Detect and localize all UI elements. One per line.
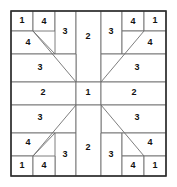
region-value-br-4a: 4	[130, 160, 135, 170]
puzzle-region-bl-4b[interactable]	[11, 133, 55, 156]
region-value-tl-4b: 4	[25, 37, 30, 47]
region-value-r-3lower: 3	[134, 112, 139, 122]
region-value-tr-4b: 4	[147, 37, 152, 47]
region-value-m-2left: 2	[40, 87, 45, 97]
puzzle-grid: 1443234143321233432314441	[0, 0, 177, 187]
puzzle-region-l-3lower[interactable]	[11, 105, 76, 133]
region-value-l-3lower: 3	[37, 112, 42, 122]
region-value-m-2right: 2	[131, 87, 136, 97]
puzzle-region-b-2[interactable]	[76, 105, 101, 176]
puzzle-container: 1443234143321233432314441	[0, 0, 177, 187]
region-value-t-3right: 3	[108, 26, 113, 36]
region-value-b-3left: 3	[62, 149, 67, 159]
region-value-tr-4a: 4	[130, 16, 135, 26]
region-value-r-3upper: 3	[134, 62, 139, 72]
region-value-tl-1: 1	[19, 15, 24, 25]
region-value-bl-1: 1	[19, 160, 24, 170]
region-value-bl-4a: 4	[41, 160, 46, 170]
region-value-tr-1: 1	[152, 15, 157, 25]
region-value-t-2: 2	[85, 31, 90, 41]
region-value-b-3right: 3	[108, 149, 113, 159]
puzzle-region-l-3upper[interactable]	[11, 54, 76, 82]
puzzle-region-tr-4b[interactable]	[122, 31, 166, 54]
region-value-b-2: 2	[85, 142, 90, 152]
region-value-br-4b: 4	[147, 137, 152, 147]
puzzle-region-t-2[interactable]	[76, 11, 101, 82]
region-value-m-1: 1	[85, 87, 90, 97]
region-value-tl-4a: 4	[41, 16, 46, 26]
region-value-l-3upper: 3	[37, 62, 42, 72]
region-value-br-1: 1	[152, 160, 157, 170]
puzzle-region-tl-4b[interactable]	[11, 31, 55, 54]
region-value-t-3left: 3	[62, 26, 67, 36]
region-value-bl-4b: 4	[25, 137, 30, 147]
puzzle-region-br-4b[interactable]	[122, 133, 166, 156]
